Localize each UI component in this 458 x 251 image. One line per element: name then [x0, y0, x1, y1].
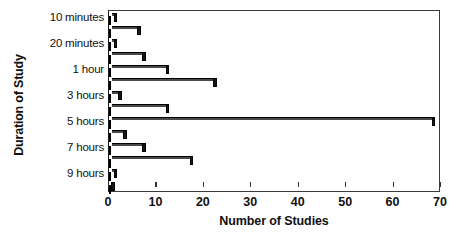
bar: [109, 68, 166, 76]
x-axis-tick-mark: [203, 182, 204, 187]
bar: [109, 172, 114, 180]
bar: [109, 94, 118, 102]
figure-caption: [8, 247, 308, 251]
x-axis-tick-label: 0: [105, 195, 112, 209]
bar-body: [109, 16, 111, 24]
bar-shadow-cap: [123, 130, 127, 138]
bar-body: [109, 42, 111, 50]
y-axis-tick-labels: 10 minutes20 minutes1 hour3 hours5 hours…: [22, 9, 104, 193]
bar: [109, 42, 114, 50]
bar: [109, 185, 111, 193]
bar: [109, 16, 114, 24]
bar: [109, 133, 123, 141]
bar-shadow-cap: [111, 182, 115, 190]
bar: [109, 146, 142, 154]
y-axis-tick-label: 7 hours: [22, 142, 104, 153]
bar-body: [109, 146, 111, 154]
y-axis-tick-label: 1 hour: [22, 64, 104, 75]
x-axis-tick-label: 60: [386, 195, 400, 209]
x-axis-tick-label: 40: [291, 195, 305, 209]
bar-shadow-cap: [213, 78, 217, 86]
bar-shadow-cap: [142, 52, 146, 60]
bar-top-edge: [112, 52, 145, 56]
x-axis-tick-labels: 010203040506070: [0, 195, 458, 213]
plot-area: [108, 10, 440, 192]
bar-body: [109, 29, 111, 37]
bar-shadow-cap: [137, 26, 141, 34]
bar-shadow-cap: [118, 91, 122, 99]
figure: Duration of Study 10 minutes20 minutes1 …: [0, 0, 458, 251]
bar-shadow-cap: [142, 143, 146, 151]
x-axis-tick-mark: [108, 182, 109, 187]
bar-shadow-cap: [114, 169, 118, 177]
y-axis-tick-label: 9 hours: [22, 168, 104, 179]
bar: [109, 81, 213, 89]
x-axis-tick-mark: [250, 182, 251, 187]
x-axis-title: Number of Studies: [108, 214, 440, 228]
bar-top-edge: [112, 156, 193, 160]
bar-shadow-cap: [114, 39, 118, 47]
bar-shadow-cap: [166, 104, 170, 112]
x-axis-tick-mark: [298, 182, 299, 187]
y-axis-tick-label: 20 minutes: [22, 38, 104, 49]
y-axis-tick-label: 5 hours: [22, 116, 104, 127]
bar-body: [109, 94, 111, 102]
bar-body: [109, 159, 111, 167]
bar-top-edge: [112, 78, 216, 82]
bar-shadow-cap: [166, 65, 170, 73]
bar-body: [109, 172, 111, 180]
bar-top-edge: [112, 117, 435, 121]
bar-shadow-cap: [190, 156, 194, 164]
bar-body: [109, 107, 111, 115]
bar-body: [109, 55, 111, 63]
x-axis-tick-mark: [345, 182, 346, 187]
x-axis-tick-label: 10: [148, 195, 162, 209]
bar-body: [109, 68, 111, 76]
bar-top-edge: [112, 26, 140, 30]
bar-top-edge: [112, 104, 169, 108]
bars-container: [109, 11, 439, 191]
bar-shadow-cap: [114, 13, 118, 21]
x-axis-tick-label: 20: [196, 195, 210, 209]
x-axis-tick-mark: [440, 182, 441, 187]
x-axis-tick-label: 30: [243, 195, 257, 209]
bar-top-edge: [112, 143, 145, 147]
bar: [109, 120, 432, 128]
y-axis-tick-label: 10 minutes: [22, 12, 104, 23]
x-axis-tick-mark: [155, 182, 156, 187]
bar: [109, 159, 190, 167]
bar-body: [109, 120, 111, 128]
bar-top-edge: [112, 65, 169, 69]
bar: [109, 107, 166, 115]
bar-shadow-cap: [432, 117, 436, 125]
y-axis-tick-label: 3 hours: [22, 90, 104, 101]
x-axis-tick-label: 50: [338, 195, 352, 209]
bar: [109, 29, 137, 37]
x-axis-tick-mark: [393, 182, 394, 187]
bar: [109, 55, 142, 63]
bar-body: [109, 81, 111, 89]
bar-body: [109, 133, 111, 141]
x-axis-tick-label: 70: [433, 195, 447, 209]
